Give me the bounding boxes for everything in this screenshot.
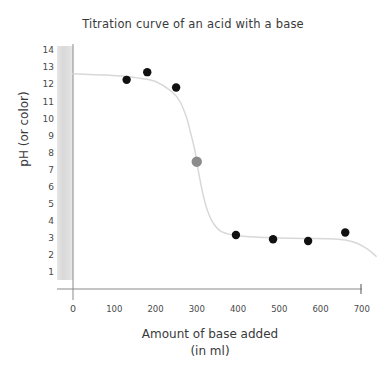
data-point-marker — [232, 231, 240, 239]
axes-group — [57, 44, 362, 300]
y-tick-label: 7 — [28, 166, 54, 175]
y-tick-label: 1 — [28, 268, 54, 277]
data-point-marker — [304, 237, 312, 245]
y-tick-label: 5 — [28, 200, 54, 209]
y-tick-label: 10 — [28, 115, 54, 124]
data-point-marker — [122, 76, 130, 84]
x-tick-label: 400 — [218, 305, 258, 314]
y-tick-label: 9 — [28, 132, 54, 141]
data-point-marker — [341, 228, 349, 236]
y-tick-label: 3 — [28, 234, 54, 243]
y-tick-label: 14 — [28, 46, 54, 55]
x-tick-label: 300 — [177, 305, 217, 314]
x-tick-label: 700 — [342, 305, 382, 314]
y-tick-label: 8 — [28, 149, 54, 158]
y-tick-label: 13 — [28, 63, 54, 72]
y-tick-label: 11 — [28, 98, 54, 107]
titration-curve-line — [73, 74, 376, 256]
data-points-group — [122, 68, 349, 245]
x-tick-label: 600 — [301, 305, 341, 314]
y-tick-label: 4 — [28, 217, 54, 226]
equivalence-point-marker — [192, 156, 202, 166]
y-tick-label: 6 — [28, 183, 54, 192]
y-tick-label: 2 — [28, 251, 54, 260]
data-point-marker — [269, 235, 277, 243]
data-point-marker — [143, 68, 151, 76]
data-point-marker — [172, 83, 180, 91]
x-tick-label: 500 — [259, 305, 299, 314]
x-tick-label: 100 — [94, 305, 134, 314]
titration-chart-figure: Titration curve of an acid with a base p… — [0, 0, 386, 376]
plot-area — [0, 0, 386, 376]
y-tick-label: 12 — [28, 80, 54, 89]
x-tick-label: 0 — [53, 304, 93, 313]
x-tick-label: 200 — [136, 305, 176, 314]
